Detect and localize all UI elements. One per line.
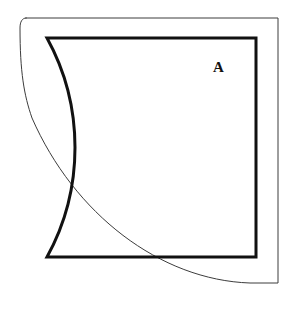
figure-diagram [0, 0, 288, 315]
region-label-a: A [213, 60, 224, 75]
figure-background [0, 0, 288, 315]
figure-root: A [0, 0, 288, 315]
